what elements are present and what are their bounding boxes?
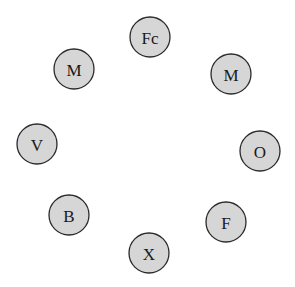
node-b: B: [49, 195, 89, 235]
node-v: V: [17, 124, 57, 164]
diagram-canvas: Fc M M V O B F X: [0, 0, 295, 287]
node-label: X: [143, 245, 155, 264]
node-fc: Fc: [130, 17, 170, 57]
node-label: B: [63, 207, 74, 226]
node-label: F: [221, 214, 230, 233]
node-m-right: M: [211, 54, 251, 94]
node-label: M: [223, 66, 238, 85]
node-m-left: M: [54, 49, 94, 89]
node-o: O: [240, 131, 280, 171]
node-label: Fc: [142, 29, 159, 48]
node-label: M: [66, 61, 81, 80]
node-label: O: [254, 143, 266, 162]
node-f: F: [206, 202, 246, 242]
node-x: X: [129, 233, 169, 273]
node-label: V: [31, 136, 44, 155]
